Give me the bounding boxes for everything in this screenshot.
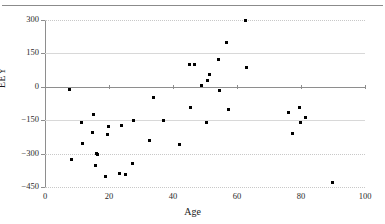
data-point (189, 106, 192, 109)
data-point (331, 181, 334, 184)
data-point (299, 121, 302, 124)
y-tick-mark (41, 154, 45, 155)
data-point (218, 89, 221, 92)
x-tick-label: 60 (222, 192, 252, 201)
y-tick-label: −300 (21, 149, 39, 158)
data-point (188, 63, 191, 66)
data-point (81, 142, 84, 145)
data-point (94, 164, 97, 167)
data-point (245, 66, 248, 69)
gridline-y-300 (45, 20, 365, 22)
data-point (131, 162, 134, 165)
data-point (132, 119, 135, 122)
data-point (80, 121, 83, 124)
x-tick-label: 100 (350, 192, 380, 201)
data-point (96, 153, 99, 156)
data-point (208, 73, 211, 76)
data-point (152, 96, 155, 99)
data-point (70, 158, 73, 161)
y-tick-label: 0 (35, 82, 39, 91)
data-point (148, 139, 151, 142)
y-tick-mark (41, 53, 45, 54)
y-tick-label: −150 (21, 115, 39, 124)
y-tick-label: −450 (21, 182, 39, 191)
data-point (68, 88, 71, 91)
y-tick-label: 300 (26, 15, 39, 24)
y-tick-mark (41, 87, 45, 88)
data-point (107, 125, 110, 128)
y-axis-title: EEY (0, 67, 7, 88)
gridline-y-150 (45, 53, 365, 55)
y-tick-mark (41, 120, 45, 121)
data-point (206, 79, 209, 82)
data-point (227, 108, 230, 111)
data-point (91, 131, 94, 134)
y-tick-mark (41, 187, 45, 188)
x-tick-mark (237, 85, 238, 89)
x-tick-label: 40 (158, 192, 188, 201)
data-point (104, 175, 107, 178)
data-point (304, 116, 307, 119)
gridline-y-0 (45, 87, 365, 89)
data-point (291, 132, 294, 135)
data-point (205, 121, 208, 124)
x-tick-mark (365, 85, 366, 89)
data-point (106, 133, 109, 136)
data-point (225, 41, 228, 44)
data-point (298, 106, 301, 109)
x-tick-mark (301, 85, 302, 89)
data-point (118, 172, 121, 175)
data-point (92, 113, 95, 116)
y-tick-label: 150 (26, 48, 39, 57)
x-tick-mark (173, 85, 174, 89)
x-axis-title: Age (0, 206, 385, 217)
data-point (193, 63, 196, 66)
data-point (162, 119, 165, 122)
data-point (200, 84, 203, 87)
data-point (244, 19, 247, 22)
header-rule (2, 5, 383, 6)
x-tick-mark (109, 85, 110, 89)
gridline-y--450 (45, 187, 365, 189)
data-point (124, 173, 127, 176)
plot-area (45, 20, 365, 187)
y-tick-mark (41, 20, 45, 21)
x-tick-label: 0 (30, 192, 60, 201)
data-point (178, 143, 181, 146)
data-point (287, 111, 290, 114)
scatter-plot-figure: EEY Age 3001500−150−300−450020406080100 (0, 0, 385, 224)
x-tick-label: 20 (94, 192, 124, 201)
gridline-y--300 (45, 154, 365, 156)
data-point (120, 124, 123, 127)
data-point (217, 58, 220, 61)
x-tick-label: 80 (286, 192, 316, 201)
